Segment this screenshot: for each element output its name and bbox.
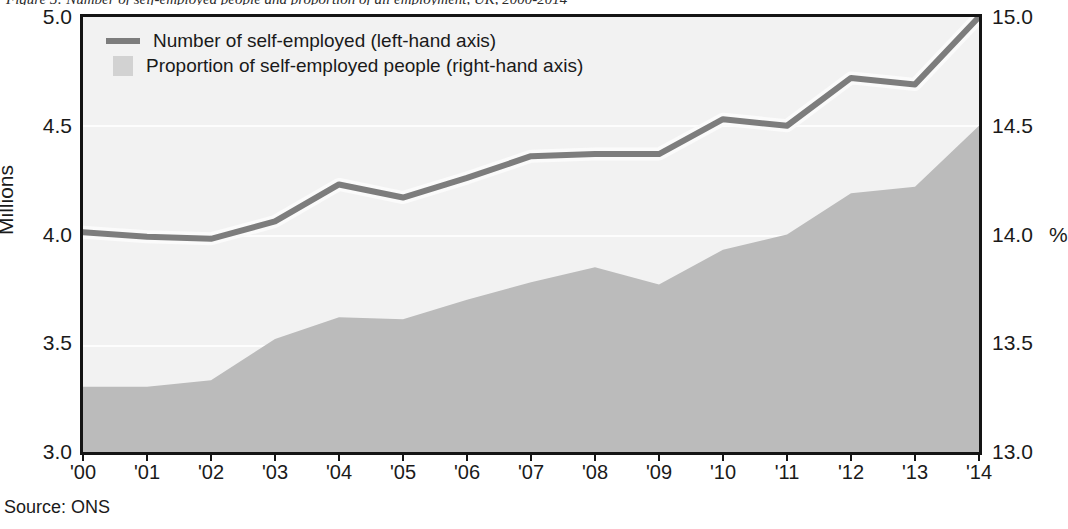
- x-axis-tick-14: '14: [966, 461, 992, 484]
- x-axis-tickmark: [210, 454, 212, 461]
- right-axis-unit: %: [1049, 223, 1068, 246]
- right-axis-tick-13.5: 13.5: [992, 331, 1033, 355]
- left-axis-tick-4.5: 4.5: [43, 114, 72, 138]
- left-axis-tick-3.5: 3.5: [43, 331, 72, 355]
- x-axis-tick-10: '10: [710, 461, 736, 484]
- left-axis-title: Millions: [0, 165, 18, 235]
- x-axis-tick-12: '12: [838, 461, 864, 484]
- x-axis-tickmark: [82, 454, 84, 461]
- x-axis-tickmark: [850, 454, 852, 461]
- x-axis-tickmark: [722, 454, 724, 461]
- legend-line-swatch-icon: [106, 38, 140, 44]
- legend-item-label: Proportion of self-employed people (righ…: [146, 53, 583, 78]
- legend-item-proportion-self-employed: Proportion of self-employed people (righ…: [106, 53, 583, 78]
- right-axis-tick-13.0: 13.0: [992, 440, 1033, 464]
- plot-inner: [83, 17, 979, 452]
- legend-item-number-self-employed: Number of self-employed (left-hand axis): [106, 28, 583, 53]
- x-axis-tickmark: [466, 454, 468, 461]
- x-axis-tickmark: [914, 454, 916, 461]
- proportion-area-series: [83, 126, 979, 452]
- x-axis-tickmark: [594, 454, 596, 461]
- x-axis-tick-05: '05: [390, 461, 416, 484]
- figure-caption-text: Figure 3: Number of self-employed people…: [0, 0, 1064, 5]
- left-axis-tick-3.0: 3.0: [43, 440, 72, 464]
- x-axis-tick-07: '07: [518, 461, 544, 484]
- x-axis-tickmark: [274, 454, 276, 461]
- legend-area-swatch-icon: [113, 56, 133, 76]
- x-axis-tickmark: [786, 454, 788, 461]
- right-axis-tick-15.0: 15.0: [992, 5, 1033, 29]
- x-axis-tickmark: [338, 454, 340, 461]
- figure-caption: Figure 3: Number of self-employed people…: [0, 0, 1064, 5]
- series-graphics: [83, 17, 979, 452]
- x-axis-tickmark: [146, 454, 148, 461]
- x-axis-tickmark: [978, 454, 980, 461]
- x-axis-tickmark: [658, 454, 660, 461]
- right-axis-tick-14.5: 14.5: [992, 114, 1033, 138]
- x-axis-tick-03: '03: [262, 461, 288, 484]
- left-axis-tick-5.0: 5.0: [43, 5, 72, 29]
- left-axis-tick-4.0: 4.0: [43, 223, 72, 247]
- x-axis-tick-01: '01: [134, 461, 160, 484]
- plot-area: [80, 14, 982, 455]
- x-axis-tick-06: '06: [454, 461, 480, 484]
- x-axis-tick-13: '13: [902, 461, 928, 484]
- x-axis-tickmark: [530, 454, 532, 461]
- x-axis-tick-11: '11: [775, 461, 800, 484]
- x-axis-tick-00: '00: [70, 461, 96, 484]
- chart-legend: Number of self-employed (left-hand axis)…: [106, 28, 583, 78]
- right-axis-tick-14.0: 14.0%: [992, 223, 1068, 247]
- x-axis-tick-09: '09: [646, 461, 672, 484]
- legend-item-label: Number of self-employed (left-hand axis): [153, 28, 496, 53]
- x-axis-tick-02: '02: [198, 461, 224, 484]
- x-axis-tick-labels: '00'01'02'03'04'05'06'07'08'09'10'11'12'…: [80, 461, 982, 489]
- x-axis-tick-08: '08: [582, 461, 608, 484]
- source-note: Source: ONS: [4, 497, 110, 518]
- x-axis-tick-04: '04: [326, 461, 352, 484]
- x-axis-tickmark: [402, 454, 404, 461]
